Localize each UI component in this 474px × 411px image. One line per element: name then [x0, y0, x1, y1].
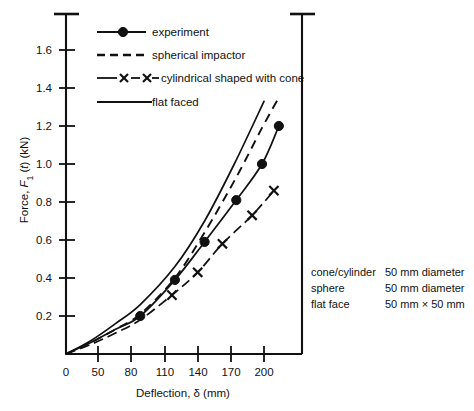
data-point-cone-cylinder: [193, 268, 202, 277]
annotation-value-2: 50 mm × 50 mm: [385, 298, 465, 310]
y-ticklabel-5: 1.2: [36, 120, 52, 132]
data-point-cone-cylinder: [269, 186, 278, 195]
data-point-experiment: [200, 237, 209, 246]
data-curves: [66, 98, 279, 355]
legend-dot-icon: [118, 27, 127, 36]
x-ticklabel-4: 140: [188, 366, 207, 378]
legend-item-spherical-impactor: spherical impactor: [97, 49, 245, 61]
chart-figure: 0.2 0.4 0.6 0.8 1.0 1.2 1.4 1.6 0 50 80 …: [0, 0, 474, 411]
x-ticklabel-6: 200: [254, 366, 273, 378]
force-deflection-chart: 0.2 0.4 0.6 0.8 1.0 1.2 1.4 1.6 0 50 80 …: [0, 0, 474, 411]
x-ticklabel-3: 110: [156, 366, 174, 378]
legend-item-flat-faced: flat faced: [97, 96, 199, 108]
data-point-experiment: [232, 196, 241, 205]
axes: [54, 13, 315, 354]
data-point-experiment: [170, 275, 179, 284]
data-point-cone-cylinder: [248, 211, 257, 220]
x-ticklabel-2: 80: [125, 366, 138, 378]
y-ticklabel-0: 0.2: [36, 310, 52, 322]
y-axis-title: Force, F1 (t) (kN): [18, 137, 35, 224]
specimen-annotations: cone/cylinder 50 mm diameter sphere 50 m…: [311, 266, 465, 310]
legend-label-cylindrical-cone: cylindrical shaped with cone: [161, 72, 304, 84]
legend-label-experiment: experiment: [152, 26, 210, 38]
annotation-label-0: cone/cylinder: [311, 266, 376, 278]
curve-experiment: [66, 126, 279, 354]
legend-item-experiment: experiment: [97, 26, 210, 38]
legend-cross-icon-1: [120, 74, 128, 82]
data-point-experiment: [257, 159, 266, 168]
y-ticklabel-4: 1.0: [36, 158, 52, 170]
y-ticklabel-6: 1.4: [36, 82, 53, 94]
y-ticklabel-7: 1.6: [36, 44, 52, 56]
y-axis-tick-labels: 0.2 0.4 0.6 0.8 1.0 1.2 1.4 1.6: [36, 44, 53, 322]
data-point-cone-cylinder: [218, 239, 227, 248]
annotation-value-1: 50 mm diameter: [385, 282, 465, 294]
y-ticklabel-1: 0.4: [36, 272, 53, 284]
legend-label-flat-faced: flat faced: [152, 96, 199, 108]
data-point-experiment: [274, 121, 283, 130]
x-ticklabel-1: 50: [92, 366, 105, 378]
x-axis-title: Deflection, δ (mm): [136, 387, 230, 399]
x-ticklabel-5: 170: [221, 366, 240, 378]
curve-flat-faced: [66, 101, 264, 354]
x-axis-tick-labels: 0 50 80 110 140 170 200: [63, 366, 274, 378]
annotation-value-0: 50 mm diameter: [385, 266, 465, 278]
annotation-label-1: sphere: [311, 282, 345, 294]
chart-legend: experiment spherical impactor: [97, 26, 304, 108]
experiment-markers: [136, 121, 284, 320]
data-point-experiment: [136, 311, 145, 320]
y-ticklabel-2: 0.6: [36, 234, 52, 246]
legend-label-spherical-impactor: spherical impactor: [152, 49, 245, 61]
cone-cylinder-markers: [167, 186, 278, 300]
legend-cross-icon-2: [143, 74, 151, 82]
legend-item-cylindrical-cone: cylindrical shaped with cone: [97, 72, 304, 84]
y-ticklabel-3: 0.8: [36, 196, 52, 208]
data-point-cone-cylinder: [167, 291, 176, 300]
annotation-label-2: flat face: [311, 298, 350, 310]
x-ticklabel-0: 0: [63, 366, 69, 378]
